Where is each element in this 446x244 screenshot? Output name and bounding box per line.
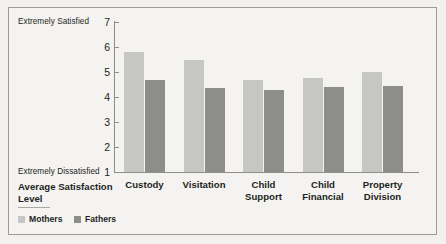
bar-visitation-mothers — [184, 60, 204, 173]
bar-visitation-fathers — [205, 88, 225, 172]
y-axis-tick — [114, 22, 119, 23]
y-axis-tick — [114, 72, 119, 73]
category-label-property-division: PropertyDivision — [346, 179, 420, 202]
y-axis-tick-label: 3 — [94, 117, 110, 127]
bar-child-support-fathers — [264, 90, 284, 173]
y-axis-tick — [114, 122, 119, 123]
legend-swatch-fathers-icon — [74, 216, 81, 223]
legend-label-fathers: Fathers — [85, 214, 116, 224]
legend-label-mothers: Mothers — [29, 214, 62, 224]
y-axis-tick — [114, 97, 119, 98]
plot-area: 1234567 Extremely Satisfied Extremely Di… — [0, 0, 446, 244]
axis-annotation-top: Extremely Satisfied — [18, 17, 89, 26]
bar-child-financial-fathers — [324, 87, 344, 172]
bar-custody-mothers — [124, 52, 144, 172]
y-axis-tick — [114, 47, 119, 48]
y-axis-tick-label: 7 — [94, 17, 110, 27]
bar-child-financial-mothers — [303, 78, 323, 172]
x-axis-title: Average Satisfaction Level — [18, 181, 113, 204]
legend-item-mothers: Mothers — [18, 214, 62, 224]
legend-swatch-mothers-icon — [18, 216, 25, 223]
chart-figure: 1234567 Extremely Satisfied Extremely Di… — [0, 0, 446, 244]
bar-property-division-mothers — [362, 72, 382, 172]
legend-divider — [18, 207, 50, 208]
bar-custody-fathers — [145, 80, 165, 173]
y-axis-tick-label: 5 — [94, 67, 110, 77]
y-axis-tick — [114, 172, 119, 173]
y-axis-tick — [114, 147, 119, 148]
bar-property-division-fathers — [383, 86, 403, 172]
legend-item-fathers: Fathers — [74, 214, 116, 224]
y-axis-tick-label: 6 — [94, 42, 110, 52]
y-axis-tick-label: 2 — [94, 142, 110, 152]
bar-child-support-mothers — [243, 80, 263, 173]
y-axis-tick-label: 4 — [94, 92, 110, 102]
x-axis-baseline — [114, 172, 419, 173]
axis-annotation-bottom: Extremely Dissatisfied — [18, 167, 100, 176]
